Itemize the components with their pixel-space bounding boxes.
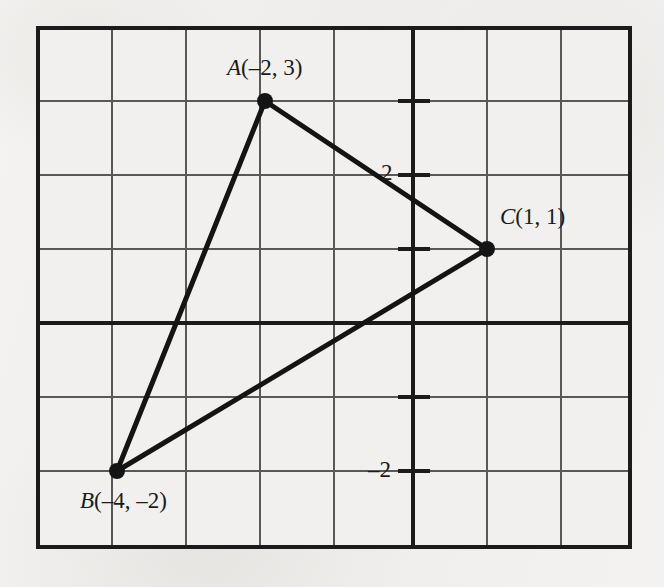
point-c-label: C(1, 1): [500, 205, 565, 228]
point-c-coords: (1, 1): [515, 204, 565, 229]
point-a-coords: (–2, 3): [241, 55, 302, 80]
point-b-name: B: [80, 488, 94, 513]
point-a-label: A(–2, 3): [227, 56, 302, 79]
point-b-coords: (–4, –2): [94, 488, 167, 513]
point-c-name: C: [500, 204, 515, 229]
point-b-marker[interactable]: [109, 463, 125, 479]
point-c-marker[interactable]: [479, 241, 495, 257]
point-a-name: A: [227, 55, 241, 80]
point-b-label: B(–4, –2): [80, 489, 167, 512]
y-axis-tick-label-2: 2: [381, 161, 393, 184]
point-a-marker[interactable]: [257, 93, 273, 109]
y-axis-tick-label-minus-2: –2: [368, 458, 391, 481]
figure-canvas: A(–2, 3) B(–4, –2) C(1, 1) 2 –2: [0, 0, 664, 587]
